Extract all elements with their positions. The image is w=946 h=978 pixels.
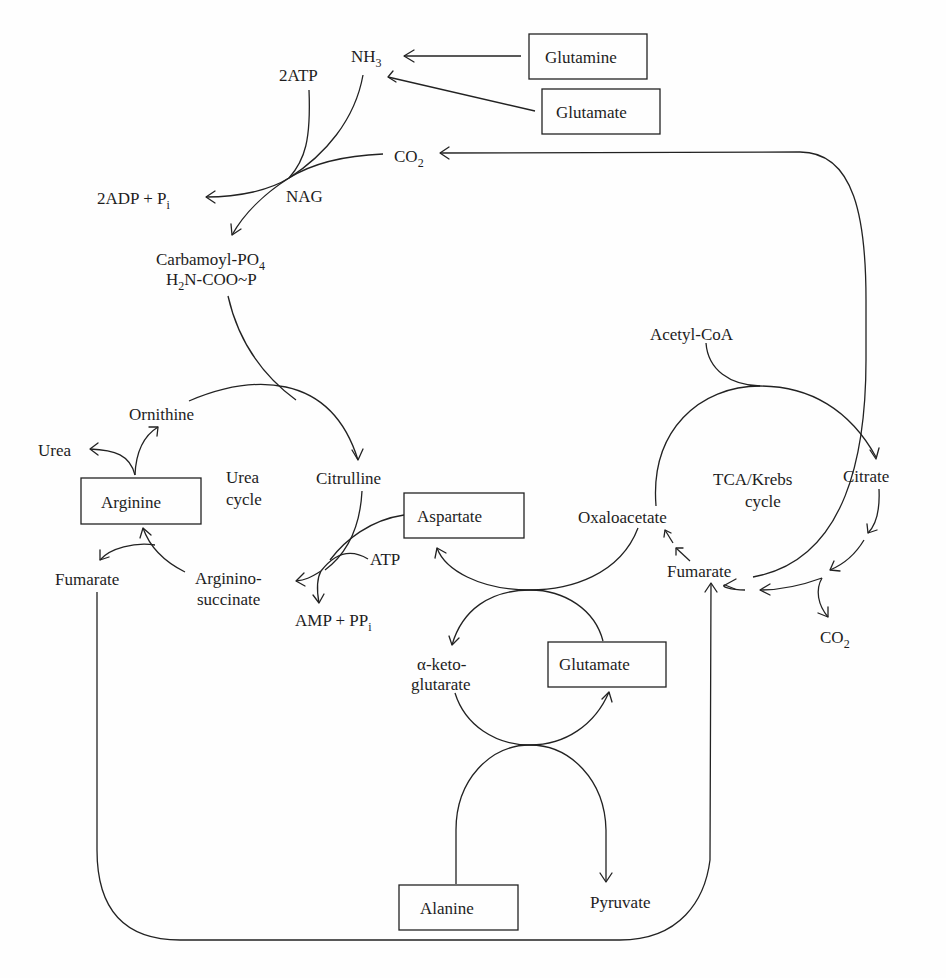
label-aspartate: Aspartate (417, 507, 482, 526)
arc-glutamate-to-akg (452, 590, 603, 645)
arrow-glutamate-to-nh3 (388, 77, 535, 111)
arrow-arginine-to-urea (90, 449, 135, 475)
label-carbamoyl-formula: H2N-COO~P (166, 270, 257, 293)
label-atp: ATP (370, 550, 400, 569)
label-pyruvate: Pyruvate (590, 893, 650, 912)
acetyl-coa-input-line (706, 343, 760, 386)
arrow-fumarate-to-oxaloacetate (676, 548, 690, 561)
label-nh3: NH3 (351, 47, 382, 70)
arc-to-branch (830, 540, 864, 570)
arc-argininosuccinate-to-arginine (143, 528, 185, 572)
label-citrulline: Citrulline (316, 469, 381, 488)
arrow-to-2adp (206, 178, 289, 197)
fumarate-transfer-line (97, 583, 711, 940)
arc-alanine-to-pyruvate (456, 745, 606, 884)
label-2atp: 2ATP (279, 66, 318, 85)
label-urea: Urea (38, 441, 71, 460)
label-argininosuccinate-1: Arginino- (195, 569, 262, 588)
label-glutamine: Glutamine (545, 48, 617, 67)
arrow-to-co2-right (818, 578, 828, 617)
label-2adp-pi: 2ADP + Pi (97, 189, 170, 212)
arrowhead-icon (435, 548, 446, 558)
co2-input-line (289, 154, 383, 178)
label-co2-right: CO2 (820, 628, 850, 651)
label-fumarate-right: Fumarate (667, 562, 731, 581)
label-glutamate-mid: Glutamate (559, 655, 630, 674)
arrowhead-icon (352, 449, 363, 460)
arc-citrulline-down (325, 491, 362, 570)
label-alpha-keto-2: glutarate (411, 675, 470, 694)
label-fumarate-left: Fumarate (55, 570, 119, 589)
arrowhead-icon (388, 71, 396, 82)
label-nag: NAG (286, 187, 323, 206)
label-arginine: Arginine (101, 493, 161, 512)
arc-ornithine-to-citrulline (189, 385, 358, 460)
label-oxaloacetate: Oxaloacetate (578, 508, 667, 527)
label-alanine: Alanine (420, 899, 474, 918)
label-argininosuccinate-2: succinate (197, 590, 260, 609)
label-tca-1: TCA/Krebs (713, 470, 792, 489)
label-tca-2: cycle (745, 492, 781, 511)
arrow-arginine-to-ornithine (135, 427, 158, 475)
label-ornithine: Ornithine (129, 405, 194, 424)
label-alpha-keto-1: α-keto- (417, 655, 467, 674)
label-glutamate-top: Glutamate (556, 103, 627, 122)
label-urea-cycle-1: Urea (226, 468, 259, 487)
label-co2-top: CO2 (394, 147, 424, 170)
arrow-to-amp (317, 571, 321, 603)
label-citrate: Citrate (843, 467, 889, 486)
arc-oxaloacetate-to-aspartate (437, 528, 638, 590)
arrow-to-argininosuccinate (296, 571, 321, 581)
label-acetyl-coa: Acetyl-CoA (650, 325, 734, 344)
label-amp-ppi: AMP + PPi (295, 611, 372, 634)
arc-akg-to-glutamate (455, 692, 609, 745)
arrow-to-carbamoyl (232, 178, 289, 235)
arc-citrate-down (868, 489, 879, 533)
label-urea-cycle-2: cycle (226, 490, 262, 509)
metabolic-pathway-diagram: Glutamine Glutamate NH3 2ATP CO2 2ADP + … (0, 0, 946, 978)
